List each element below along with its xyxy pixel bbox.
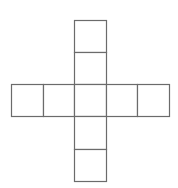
cross-net-diagram xyxy=(0,0,178,188)
cell-group xyxy=(12,21,170,182)
square-cell-center xyxy=(75,85,107,117)
square-cell-bottom-1 xyxy=(75,117,107,150)
square-cell-bottom-2 xyxy=(75,150,107,182)
square-cell-top-1 xyxy=(75,21,107,53)
square-cell-left-2 xyxy=(44,85,75,117)
square-cell-right-2 xyxy=(138,85,170,117)
square-cell-left-1 xyxy=(12,85,44,117)
square-cell-top-2 xyxy=(75,53,107,85)
square-cell-right-1 xyxy=(107,85,138,117)
